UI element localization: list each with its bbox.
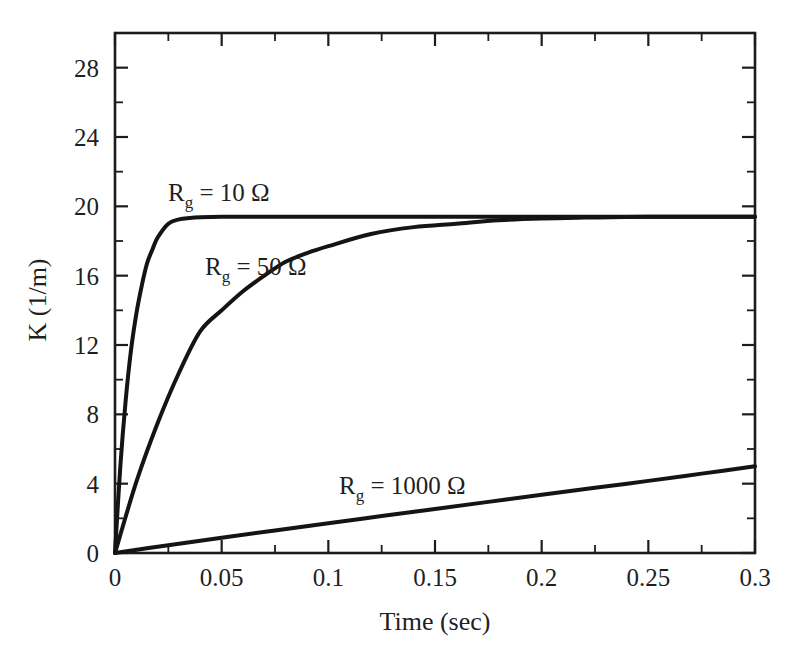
annotation-rg1000-prefix: R xyxy=(339,472,356,499)
annotation-rg10-prefix: R xyxy=(168,179,185,206)
y-tick-label: 8 xyxy=(87,401,100,428)
x-tick-label: 0.1 xyxy=(313,564,344,591)
x-tick-label: 0.05 xyxy=(200,564,244,591)
annotation-rg50-prefix: R xyxy=(205,253,222,280)
x-tick-label: 0.3 xyxy=(739,564,770,591)
x-axis-tick-labels: 00.050.10.150.20.250.3 xyxy=(109,564,771,591)
y-tick-label: 0 xyxy=(87,540,100,567)
y-tick-label: 4 xyxy=(87,471,100,498)
y-axis-title: K (1/m) xyxy=(23,258,52,341)
chart-plot: 00.050.10.150.20.250.3 0481216202428 Tim… xyxy=(0,0,803,648)
x-tick-label: 0.15 xyxy=(413,564,457,591)
y-axis-tick-labels: 0481216202428 xyxy=(74,55,100,567)
x-axis-title: Time (sec) xyxy=(380,607,491,636)
x-tick-label: 0 xyxy=(109,564,122,591)
annotation-rg1000-suffix: = 1000 Ω xyxy=(364,472,465,499)
y-tick-label: 24 xyxy=(74,124,100,151)
x-tick-label: 0.2 xyxy=(526,564,557,591)
annotation-rg50-suffix: = 50 Ω xyxy=(230,253,306,280)
x-tick-label: 0.25 xyxy=(626,564,670,591)
annotation-rg10-suffix: = 10 Ω xyxy=(193,179,269,206)
figure-canvas: 00.050.10.150.20.250.3 0481216202428 Tim… xyxy=(0,0,803,648)
series-annotation-rg10: Rg = 10 Ω xyxy=(168,179,270,212)
y-tick-label: 20 xyxy=(74,193,99,220)
y-tick-label: 12 xyxy=(74,332,99,359)
series-annotation-rg1000: Rg = 1000 Ω xyxy=(339,472,466,505)
y-tick-label: 16 xyxy=(74,263,99,290)
y-tick-label: 28 xyxy=(74,55,99,82)
